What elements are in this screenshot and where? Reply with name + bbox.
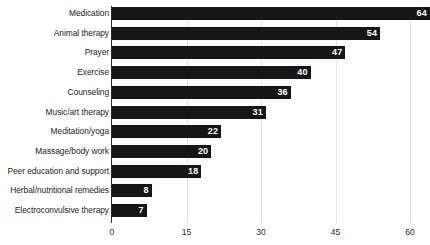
- bar-row: 20: [112, 145, 211, 158]
- x-tick-label: 30: [241, 227, 281, 237]
- bar-value-label: 7: [139, 204, 144, 217]
- x-tick-label: 45: [316, 227, 356, 237]
- category-label: Massage/body work: [0, 145, 112, 158]
- bar: [112, 106, 266, 119]
- bar-value-label: 47: [332, 46, 342, 59]
- category-label: Medication: [0, 7, 112, 20]
- category-label: Exercise: [0, 66, 112, 79]
- category-label: Animal therapy: [0, 27, 112, 40]
- bar-value-label: 64: [416, 7, 426, 20]
- bar-value-label: 8: [144, 184, 149, 197]
- category-label: Prayer: [0, 46, 112, 59]
- bar: [112, 145, 211, 158]
- gridline-60: [410, 7, 411, 223]
- x-tick-label: 15: [167, 227, 207, 237]
- x-tick-label: 0: [92, 227, 132, 237]
- bar-value-label: 18: [188, 165, 198, 178]
- bar-row: 31: [112, 106, 266, 119]
- x-tick-label: 60: [390, 227, 430, 237]
- bar-row: 54: [112, 27, 380, 40]
- category-label: Counseling: [0, 86, 112, 99]
- category-label: Music/art therapy: [0, 106, 112, 119]
- bar: [112, 7, 430, 20]
- category-label: Electroconvulsive therapy: [0, 204, 112, 217]
- bar-value-label: 40: [297, 66, 307, 79]
- bar-value-label: 20: [198, 145, 208, 158]
- bar-value-label: 22: [208, 125, 218, 138]
- category-label: Peer education and support: [0, 165, 112, 178]
- bar-row: 7: [112, 204, 147, 217]
- category-label: Herbal/nutritional remedies: [0, 184, 112, 197]
- bar-row: 64: [112, 7, 430, 20]
- bar: [112, 86, 291, 99]
- bar-value-label: 36: [277, 86, 287, 99]
- category-label: Meditation/yoga: [0, 125, 112, 138]
- bar-row: 18: [112, 165, 201, 178]
- bar-row: 40: [112, 66, 311, 79]
- bar: [112, 46, 345, 59]
- chart-title: [4, 0, 304, 3]
- bar: [112, 66, 311, 79]
- bar: [112, 27, 380, 40]
- bar-row: 47: [112, 46, 345, 59]
- bar-row: 8: [112, 184, 152, 197]
- bar-row: 22: [112, 125, 221, 138]
- bar-row: 36: [112, 86, 291, 99]
- bar: [112, 125, 221, 138]
- bar-value-label: 54: [367, 27, 377, 40]
- bar-value-label: 31: [253, 106, 263, 119]
